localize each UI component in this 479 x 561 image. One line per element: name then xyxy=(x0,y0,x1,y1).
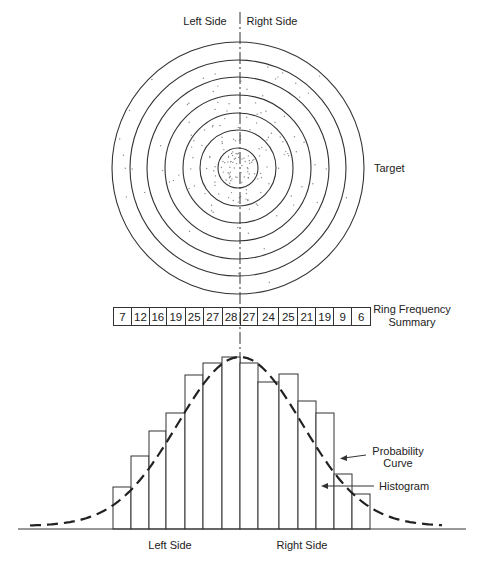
shot-dot xyxy=(233,139,234,140)
histogram-bar xyxy=(203,363,222,529)
shot-dot xyxy=(284,154,285,155)
frequency-cell: 28 xyxy=(223,308,241,325)
shot-dot xyxy=(238,157,239,158)
shot-dot xyxy=(230,180,231,181)
shot-dot xyxy=(211,205,212,206)
shot-dot xyxy=(232,155,233,156)
shot-dot xyxy=(123,155,124,156)
target-ring xyxy=(112,42,364,294)
shot-dot xyxy=(213,212,214,213)
shot-dot xyxy=(125,168,126,169)
shot-dot xyxy=(229,167,230,168)
shot-dot xyxy=(173,180,174,181)
shot-dot xyxy=(237,153,238,154)
shot-dot xyxy=(248,155,249,156)
target-diagram xyxy=(112,42,364,294)
shot-dot xyxy=(189,122,190,123)
shot-dot xyxy=(226,110,227,111)
shot-dot xyxy=(191,135,192,136)
shot-dot xyxy=(262,95,263,96)
shot-dot xyxy=(228,157,229,158)
frequency-cell: 12 xyxy=(132,308,150,325)
shot-dot xyxy=(241,158,242,159)
ring-frequency-summary: 7121619252728272425211996 xyxy=(113,307,371,326)
shot-dot xyxy=(214,109,215,110)
shot-dot xyxy=(312,183,313,184)
shot-dot xyxy=(235,176,236,177)
shot-dot xyxy=(299,96,300,97)
shot-dot xyxy=(223,149,224,150)
shot-dot xyxy=(229,177,230,178)
histogram-bar xyxy=(222,357,240,529)
shot-dot xyxy=(227,161,228,162)
histogram-bar xyxy=(240,363,258,529)
shot-dot xyxy=(126,196,127,197)
shot-dot xyxy=(226,179,227,180)
shot-dot xyxy=(285,151,286,152)
shot-dot xyxy=(204,129,205,130)
shot-dot xyxy=(294,136,295,137)
shot-dot xyxy=(282,141,283,142)
target-label: Target xyxy=(374,162,405,174)
shot-dot xyxy=(160,145,161,146)
shot-dot xyxy=(231,178,232,179)
shot-dot xyxy=(192,157,193,158)
shot-dot xyxy=(193,140,194,141)
shot-dot xyxy=(215,175,216,176)
shot-dot xyxy=(265,149,266,150)
target-ring xyxy=(130,60,346,276)
shot-dot xyxy=(189,188,190,189)
bottom-left-side-label: Left Side xyxy=(148,539,191,551)
histogram-bar xyxy=(131,456,149,529)
shot-dot xyxy=(222,161,223,162)
shot-dot xyxy=(303,142,304,143)
shot-dot xyxy=(249,208,250,209)
top-left-side-label: Left Side xyxy=(183,15,226,27)
shot-dot xyxy=(144,192,145,193)
shot-dot xyxy=(259,155,260,156)
shot-dot xyxy=(246,189,247,190)
shot-dot xyxy=(238,273,239,274)
shot-dot xyxy=(190,168,191,169)
shot-dot xyxy=(271,133,272,134)
shot-dot xyxy=(274,122,275,123)
frequency-cell: 9 xyxy=(334,308,352,325)
shot-dot xyxy=(249,163,250,164)
shot-dot xyxy=(258,148,259,149)
shot-dot xyxy=(243,158,244,159)
shot-dot xyxy=(317,202,318,203)
target-ring xyxy=(165,95,311,241)
shot-dot xyxy=(257,205,258,206)
shot-dot xyxy=(301,186,302,187)
shot-dot xyxy=(204,193,205,194)
top-right-side-label: Right Side xyxy=(247,15,298,27)
shot-dot xyxy=(129,110,130,111)
shot-dot xyxy=(296,151,297,152)
shot-dot xyxy=(237,227,238,228)
shot-dot xyxy=(230,172,231,173)
shot-dot xyxy=(260,112,261,113)
shot-dot xyxy=(266,139,267,140)
histogram-bar xyxy=(279,374,298,529)
probability-arrow-icon xyxy=(340,455,366,461)
shot-dot xyxy=(249,129,250,130)
histogram-bar xyxy=(258,382,279,529)
probability-curve-label-line1: Probability xyxy=(372,445,423,457)
frequency-cell: 27 xyxy=(241,308,259,325)
shot-dot xyxy=(277,76,278,77)
shot-dot xyxy=(215,73,216,74)
shot-dot xyxy=(278,168,279,169)
shot-dot xyxy=(221,167,222,168)
shot-dot xyxy=(264,248,265,249)
shot-dot xyxy=(221,141,222,142)
shot-dot xyxy=(268,183,269,184)
shot-dot xyxy=(280,136,281,137)
shot-dot xyxy=(288,155,289,156)
shot-dot xyxy=(256,122,257,123)
shot-dot xyxy=(249,173,250,174)
shot-dot xyxy=(293,204,294,205)
histogram-label: Histogram xyxy=(379,480,429,492)
shot-dot xyxy=(255,102,256,103)
shot-dot xyxy=(188,103,189,104)
shot-dot xyxy=(234,158,235,159)
